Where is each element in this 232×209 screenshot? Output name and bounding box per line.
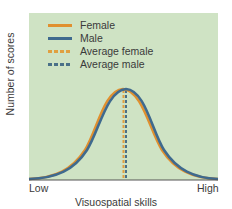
legend-avg-male-label: Average male — [80, 58, 145, 70]
legend-avg-female-label: Average female — [80, 45, 153, 57]
legend-male-label: Male — [80, 32, 103, 44]
legend-female-label: Female — [80, 19, 115, 31]
x-axis-label: Visuospatial skills — [0, 196, 232, 208]
chart-svg — [0, 0, 232, 209]
x-tick-low: Low — [29, 182, 48, 194]
y-axis-label: Number of scores — [4, 24, 16, 124]
x-tick-high: High — [197, 182, 219, 194]
